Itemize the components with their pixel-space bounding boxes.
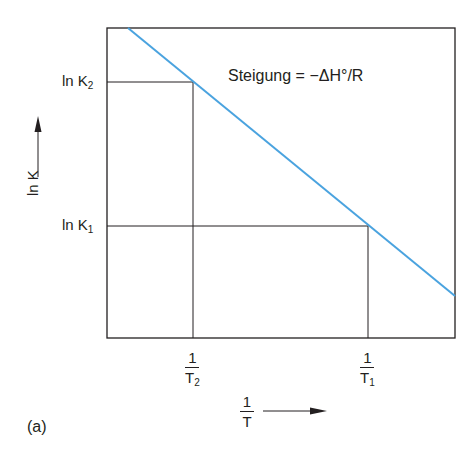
- y-tick-lnK1-sub: 1: [88, 224, 94, 235]
- x-tick-invT1: 1 T1: [360, 350, 375, 388]
- x-tick-invT2: 1 T2: [185, 350, 200, 388]
- x-tick-invT1-sub: 1: [369, 377, 375, 388]
- y-tick-lnK2-base: ln K: [62, 72, 88, 89]
- x-axis-label-denominator: T: [242, 412, 251, 429]
- x-tick-invT2-numerator: 1: [188, 350, 196, 367]
- figure-label: (a): [27, 419, 47, 435]
- y-tick-lnK2: ln K2: [62, 73, 93, 91]
- x-tick-invT2-base: T: [185, 369, 194, 386]
- x-tick-invT1-base: T: [360, 369, 369, 386]
- x-axis-label-numerator: 1: [243, 394, 251, 411]
- y-tick-lnK1-base: ln K: [62, 216, 88, 233]
- x-tick-invT1-denominator: T1: [360, 368, 375, 388]
- x-tick-invT2-denominator: T2: [185, 368, 200, 388]
- x-axis-label: 1 T: [240, 394, 254, 429]
- y-axis-label: ln K: [24, 170, 41, 196]
- y-tick-lnK1: ln K1: [62, 217, 93, 235]
- x-tick-invT1-numerator: 1: [363, 350, 371, 367]
- y-axis-arrow-icon: [35, 116, 42, 132]
- x-axis-arrow-icon: [310, 408, 327, 415]
- x-tick-invT2-sub: 2: [194, 377, 200, 388]
- slope-annotation: Steigung = −ΔH°/R: [228, 68, 363, 84]
- y-tick-lnK2-sub: 2: [88, 80, 94, 91]
